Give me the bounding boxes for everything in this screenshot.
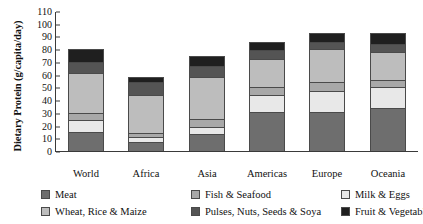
legend-label: Pulses, Nuts, Seeds & Soya — [205, 206, 321, 217]
bar-segment — [370, 87, 406, 107]
bar-segment — [68, 132, 104, 151]
legend-swatch-icon — [341, 207, 350, 216]
legend-item: Milk & Eggs — [341, 186, 423, 203]
bar-segment — [249, 95, 285, 112]
bar-segment — [249, 42, 285, 51]
bar-segment — [309, 112, 345, 151]
legend-swatch-icon — [191, 190, 200, 199]
legend-label: Fruit & Vegetables — [355, 206, 423, 217]
bar-oceania[interactable] — [370, 12, 406, 151]
legend-swatch-icon — [41, 207, 50, 216]
bar-europe[interactable] — [309, 12, 345, 151]
legend-item: Pulses, Nuts, Seeds & Soya — [191, 203, 341, 220]
bar-segment — [128, 82, 164, 95]
bar-segment — [68, 62, 104, 73]
bar-world[interactable] — [68, 12, 104, 151]
legend-item: Wheat, Rice & Maize — [41, 203, 191, 220]
legend-item: Meat — [41, 186, 191, 203]
bar-americas[interactable] — [249, 12, 285, 151]
bar-segment — [189, 66, 225, 77]
y-axis-tick-label: 100 — [6, 20, 56, 30]
y-axis-tick-label: 80 — [6, 45, 56, 55]
legend-swatch-icon — [191, 207, 200, 216]
bar-segment — [128, 95, 164, 133]
y-axis-tick-label: 30 — [6, 109, 56, 119]
legend-label: Meat — [55, 189, 77, 200]
legend-item: Fish & Seafood — [191, 186, 341, 203]
x-axis-label-oceania: Oceania — [348, 168, 423, 179]
bar-africa[interactable] — [128, 12, 164, 151]
bar-segment — [370, 52, 406, 80]
y-axis-tick-label: 70 — [6, 58, 56, 68]
bar-segment — [189, 119, 225, 127]
bar-segment — [309, 82, 345, 91]
bar-segment — [309, 33, 345, 42]
bar-segment — [309, 91, 345, 111]
y-axis-tick-label: 90 — [6, 32, 56, 42]
bar-segment — [128, 142, 164, 151]
bar-segment — [189, 127, 225, 135]
legend-label: Wheat, Rice & Maize — [55, 206, 147, 217]
bar-segment — [189, 77, 225, 119]
y-axis-tick-label: 0 — [6, 147, 56, 157]
y-axis-tick-label: 20 — [6, 122, 56, 132]
bar-segment — [189, 56, 225, 66]
bar-segment — [370, 33, 406, 44]
bar-group — [56, 12, 418, 151]
bar-segment — [249, 112, 285, 151]
y-axis-tick-label: 50 — [6, 83, 56, 93]
bar-segment — [249, 59, 285, 87]
bar-segment — [68, 73, 104, 112]
bar-segment — [249, 87, 285, 95]
bar-segment — [68, 49, 104, 62]
y-axis-tick-mark — [56, 152, 60, 153]
legend-swatch-icon — [41, 190, 50, 199]
bar-segment — [370, 80, 406, 88]
legend-swatch-icon — [341, 190, 350, 199]
bar-segment — [309, 49, 345, 82]
bar-segment — [249, 50, 285, 59]
bar-segment — [68, 113, 104, 121]
y-axis-tick-label: 110 — [6, 7, 56, 17]
bar-segment — [309, 42, 345, 50]
legend: MeatFish & SeafoodMilk & EggsWheat, Rice… — [41, 186, 413, 220]
plot-area: 0102030405060708090100110 WorldAfricaAsi… — [55, 12, 418, 152]
legend-label: Milk & Eggs — [355, 189, 410, 200]
bar-segment — [189, 134, 225, 151]
legend-item: Fruit & Vegetables — [341, 203, 423, 220]
bar-segment — [68, 120, 104, 131]
y-axis-tick-label: 10 — [6, 134, 56, 144]
bar-segment — [370, 44, 406, 52]
chart-container: Dietary Protein (g/capita/day) 010203040… — [0, 0, 423, 224]
legend-label: Fish & Seafood — [205, 189, 271, 200]
bar-segment — [370, 108, 406, 151]
y-axis-tick-label: 60 — [6, 71, 56, 81]
bar-asia[interactable] — [189, 12, 225, 151]
y-axis-tick-label: 40 — [6, 96, 56, 106]
